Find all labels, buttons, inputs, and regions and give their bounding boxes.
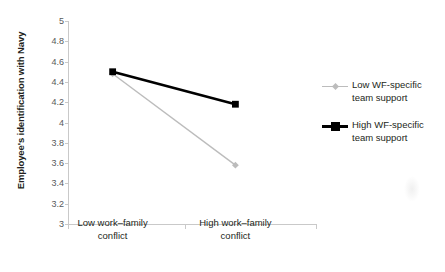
y-axis-tick-label: 4.2 xyxy=(34,97,64,107)
legend-label-high-line1: High WF-specific xyxy=(352,119,424,130)
series-data-point xyxy=(109,68,116,75)
y-axis-tick-label: 3.8 xyxy=(34,138,64,148)
legend-marker-high-icon xyxy=(322,122,348,131)
y-axis-tick-label: 5 xyxy=(34,16,64,26)
legend-label-low-line2: team support xyxy=(352,92,407,103)
legend-item-low-support: Low WF-specific team support xyxy=(322,78,442,104)
legend-item-high-support: High WF-specific team support xyxy=(322,118,442,144)
legend-label-high-line2: team support xyxy=(352,132,407,143)
chart-figure: Employee's identification with Navy 54.8… xyxy=(0,0,445,272)
legend-marker-low-icon xyxy=(322,82,348,91)
y-axis-tick-label: 3.6 xyxy=(34,158,64,168)
x-axis-category-label: High work–familyconflict xyxy=(160,216,310,242)
y-axis-tick-label: 4.6 xyxy=(34,57,64,67)
y-axis-tick-label: 4.4 xyxy=(34,77,64,87)
plot-area xyxy=(68,21,316,224)
scan-artifact xyxy=(404,176,420,202)
y-axis-tick-label: 4 xyxy=(34,118,64,128)
y-axis-tick-label: 3.4 xyxy=(34,178,64,188)
y-axis-title: Employee's identification with Navy xyxy=(15,5,26,217)
y-axis-tick-label: 3.2 xyxy=(34,199,64,209)
series-plot xyxy=(68,21,316,224)
chart-legend: Low WF-specific team support High WF-spe… xyxy=(322,78,442,158)
series-data-point xyxy=(232,101,239,108)
legend-label-low-line1: Low WF-specific xyxy=(352,79,422,90)
y-axis-tick-label: 4.8 xyxy=(34,36,64,46)
x-axis-tick-mark xyxy=(316,224,317,229)
